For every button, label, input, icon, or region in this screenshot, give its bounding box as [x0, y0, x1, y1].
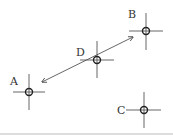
diagram-svg: A B C D [0, 0, 173, 135]
double-arrow-a-b [42, 37, 133, 82]
label-d: D [76, 46, 85, 59]
point-d [80, 41, 114, 78]
label-a: A [9, 75, 19, 88]
point-c [126, 92, 161, 128]
diagram-canvas: A B C D [0, 0, 173, 135]
label-b: B [128, 8, 136, 21]
label-c: C [117, 104, 125, 117]
